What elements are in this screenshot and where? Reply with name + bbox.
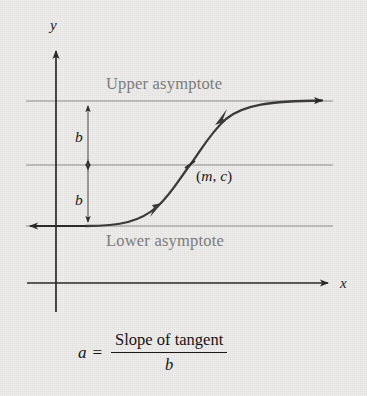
formula-denominator: b — [165, 353, 173, 375]
logistic-curve — [86, 101, 322, 227]
x-axis-label: x — [340, 276, 347, 291]
y-axis-label: y — [50, 18, 57, 33]
formula-lhs: a — [78, 343, 87, 363]
upper-asymptote-label: Upper asymptote — [106, 76, 222, 93]
b-label-lower: b — [75, 192, 83, 208]
inflection-point-label: (m, c) — [196, 168, 232, 184]
formula-equals: = — [93, 343, 103, 363]
slope-formula: a = Slope of tangent b — [78, 330, 227, 375]
formula-fraction: Slope of tangent b — [111, 330, 227, 375]
b-label-upper: b — [75, 129, 83, 145]
lower-asymptote-label: Lower asymptote — [106, 233, 224, 250]
curve-direction-arrow-upper — [215, 109, 227, 125]
formula-numerator: Slope of tangent — [111, 330, 227, 352]
logistic-curve-figure: y x Upper asymptote Lower asymptote b b … — [0, 0, 367, 396]
